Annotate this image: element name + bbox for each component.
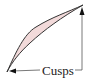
lower-curve [7, 5, 83, 72]
cusps-label: Cusps [42, 63, 74, 78]
arrowhead-left [9, 69, 16, 74]
leader-line-left [12, 70, 40, 71]
arrowhead-right [80, 7, 85, 15]
shaded-region [7, 5, 83, 72]
upper-curve [7, 5, 83, 72]
cusps-diagram: Cusps [0, 0, 94, 81]
